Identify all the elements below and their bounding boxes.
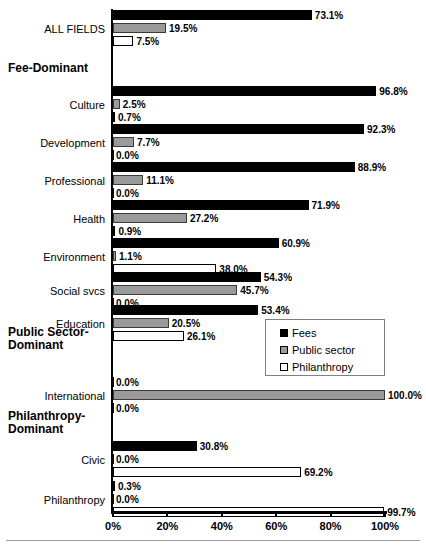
bar-value-fees-philanthropy: 0.3% [118, 482, 141, 492]
bar-philanthropy-culture [113, 112, 115, 122]
x-tick-mark [330, 511, 332, 517]
bar-value-fees-professional: 88.9% [358, 163, 386, 173]
bar-value-public-sector-professional: 11.1% [146, 176, 174, 186]
bar-public-sector-philanthropy [113, 494, 114, 504]
bar-fees-social-svcs [113, 272, 261, 282]
category-label-philanthropy: Philanthropy [44, 494, 105, 506]
bar-value-public-sector-civic: 0.0% [116, 455, 139, 465]
bar-value-philanthropy-health: 0.9% [118, 227, 141, 237]
bar-value-fees-all-fields: 73.1% [315, 11, 343, 21]
bar-value-public-sector-environment: 1.1% [119, 252, 142, 262]
legend-label-public-sector: Public sector [292, 344, 355, 356]
bar-value-public-sector-culture: 2.5% [123, 100, 146, 110]
bar-value-philanthropy-development: 0.0% [116, 151, 139, 161]
bar-value-public-sector-health: 27.2% [190, 214, 218, 224]
legend-item-philanthropy: Philanthropy [280, 358, 384, 375]
x-tick-label: 0% [105, 520, 121, 532]
bar-value-public-sector-philanthropy: 0.0% [116, 495, 139, 505]
x-tick-mark [166, 511, 168, 517]
bar-fees-environment [113, 238, 279, 248]
group-heading-philanthropy-dominant: Philanthropy-Dominant [8, 410, 85, 436]
category-label-environment: Environment [43, 251, 105, 263]
x-tick-label: 40% [211, 520, 233, 532]
bar-philanthropy-professional [113, 188, 114, 198]
category-label-health: Health [73, 213, 105, 225]
bar-value-fees-international: 0.0% [116, 378, 139, 388]
bar-fees-all-fields [113, 10, 312, 20]
bar-value-fees-development: 92.3% [367, 125, 395, 135]
category-label-development: Development [40, 137, 105, 149]
category-label-international: International [44, 390, 105, 402]
footer-divider [6, 540, 420, 541]
x-tick-label: 60% [265, 520, 287, 532]
bar-public-sector-environment [113, 251, 116, 261]
bar-value-public-sector-all-fields: 19.5% [169, 24, 197, 34]
bar-fees-philanthropy [113, 481, 115, 491]
group-heading-line: Dominant [8, 423, 85, 436]
bar-public-sector-development [113, 137, 134, 147]
x-tick-label: 100% [371, 520, 399, 532]
bar-public-sector-social-svcs [113, 285, 237, 295]
bar-fees-international [113, 377, 114, 387]
category-label-professional: Professional [44, 175, 105, 187]
bar-fees-development [113, 124, 364, 134]
legend-swatch-public-sector-icon [280, 346, 288, 354]
legend-label-philanthropy: Philanthropy [292, 361, 353, 373]
bar-philanthropy-health [113, 226, 115, 236]
x-tick-mark [275, 511, 277, 517]
group-heading-line: Dominant [8, 339, 89, 352]
y-axis-line [111, 9, 113, 514]
bar-value-philanthropy-culture: 0.7% [118, 113, 141, 123]
bar-value-fees-environment: 60.9% [282, 239, 310, 249]
bar-value-fees-education: 53.4% [261, 306, 289, 316]
legend-swatch-philanthropy-icon [280, 363, 288, 371]
bar-fees-professional [113, 162, 355, 172]
bar-value-philanthropy-international: 0.0% [116, 404, 139, 414]
bar-value-fees-social-svcs: 54.3% [264, 273, 292, 283]
bar-public-sector-health [113, 213, 187, 223]
x-tick-mark [221, 511, 223, 517]
bar-value-public-sector-social-svcs: 45.7% [240, 286, 268, 296]
bar-value-public-sector-education: 20.5% [172, 319, 200, 329]
bar-value-public-sector-development: 7.7% [137, 138, 160, 148]
x-tick-mark [112, 511, 114, 517]
bar-fees-culture [113, 86, 376, 96]
bar-value-public-sector-international: 100.0% [388, 391, 422, 401]
bar-fees-education [113, 305, 258, 315]
bar-public-sector-civic [113, 454, 114, 464]
category-label-culture: Culture [70, 99, 105, 111]
bar-philanthropy-education [113, 331, 184, 341]
bar-value-philanthropy-philanthropy: 99.7% [387, 508, 415, 518]
bar-value-fees-culture: 96.8% [379, 87, 407, 97]
bar-fees-health [113, 200, 309, 210]
group-heading-fee-dominant: Fee-Dominant [8, 62, 88, 75]
group-heading-public-sector-dominant: Public Sector-Dominant [8, 326, 89, 352]
bar-public-sector-international [113, 390, 385, 400]
legend: Fees Public sector Philanthropy [265, 319, 385, 376]
bar-value-fees-civic: 30.8% [200, 442, 228, 452]
bar-philanthropy-all-fields [113, 36, 133, 46]
legend-item-fees: Fees [280, 324, 384, 341]
category-label-social-svcs: Social svcs [50, 285, 105, 297]
x-tick-label: 20% [156, 520, 178, 532]
bar-philanthropy-civic [113, 467, 301, 477]
x-tick-mark [384, 511, 386, 517]
x-axis-line [111, 511, 387, 514]
bar-value-philanthropy-civic: 69.2% [304, 468, 332, 478]
legend-label-fees: Fees [292, 327, 316, 339]
bar-philanthropy-development [113, 150, 114, 160]
bar-philanthropy-international [113, 403, 114, 413]
legend-swatch-fees-icon [280, 329, 288, 337]
bar-value-philanthropy-all-fields: 7.5% [136, 37, 159, 47]
group-heading-line: Fee-Dominant [8, 62, 88, 75]
bar-public-sector-all-fields [113, 23, 166, 33]
bar-value-philanthropy-education: 26.1% [187, 332, 215, 342]
bar-value-fees-health: 71.9% [312, 201, 340, 211]
legend-item-public-sector: Public sector [280, 341, 384, 358]
bar-public-sector-professional [113, 175, 143, 185]
x-tick-label: 80% [320, 520, 342, 532]
bar-public-sector-education [113, 318, 169, 328]
bar-public-sector-culture [113, 99, 120, 109]
category-label-civic: Civic [81, 454, 105, 466]
bar-chart: 73.1%19.5%7.5%96.8%2.5%0.7%92.3%7.7%0.0%… [0, 0, 426, 552]
